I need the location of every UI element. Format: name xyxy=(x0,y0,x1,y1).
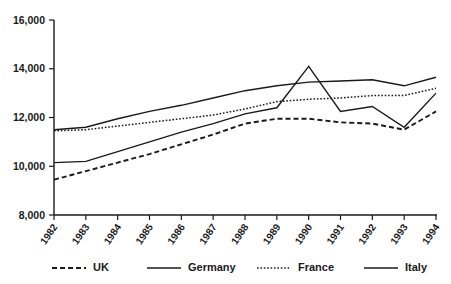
legend-label-germany: Germany xyxy=(188,261,237,273)
y-tick-label: 12,000 xyxy=(13,111,45,123)
line-chart: 16,00014,00012,00010,0008,000 1982198319… xyxy=(0,0,451,284)
legend-label-uk: UK xyxy=(93,261,109,273)
y-tick-label: 14,000 xyxy=(13,62,45,74)
legend-label-france: France xyxy=(298,261,334,273)
chart-background xyxy=(0,0,451,284)
y-tick-label: 16,000 xyxy=(13,14,45,26)
y-tick-label: 10,000 xyxy=(13,160,45,172)
chart-canvas: 16,00014,00012,00010,0008,000 1982198319… xyxy=(0,0,451,284)
y-tick-label: 8,000 xyxy=(19,209,45,221)
legend-label-italy: Italy xyxy=(405,261,428,273)
